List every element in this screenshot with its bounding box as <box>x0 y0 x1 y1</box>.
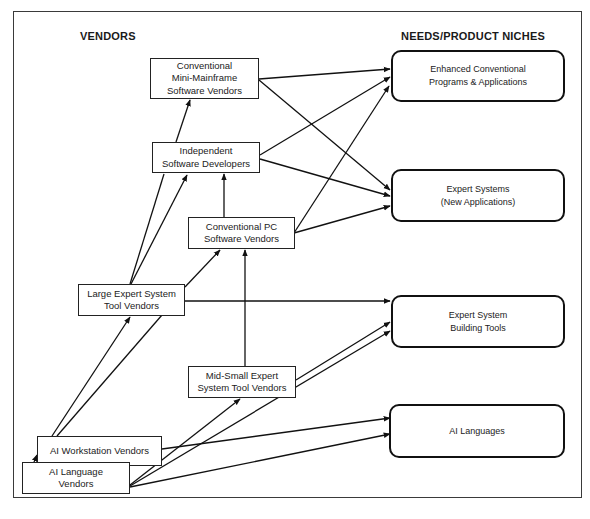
vendor-label-line: Tool Vendors <box>104 300 159 313</box>
arrow-workstation-to-large <box>52 317 130 436</box>
arrow-midsmall-to-building-tools <box>296 322 390 380</box>
vendor-label-line: Conventional <box>177 60 232 73</box>
niche-box-expert-systems[interactable]: Expert Systems (New Applications) <box>391 169 565 222</box>
arrow-language-to-large <box>57 315 162 436</box>
arrow-language-to-ai-languages <box>130 434 390 487</box>
vendor-box-conventional-pc[interactable]: Conventional PC Software Vendors <box>188 217 295 249</box>
vendor-label-line: Software Developers <box>162 158 250 171</box>
vendor-label-line: Large Expert System <box>87 288 176 301</box>
niche-label-line: Programs & Applications <box>429 76 527 89</box>
niche-label-line: Building Tools <box>450 322 505 335</box>
diagram-canvas: VENDORS NEEDS/PRODUCT NICHES Conventiona… <box>0 0 590 519</box>
vendor-label-line: Conventional PC <box>206 221 277 234</box>
arrow-independent-to-minimainframe <box>176 100 190 142</box>
vendor-box-large-expert[interactable]: Large Expert System Tool Vendors <box>78 284 185 316</box>
vendor-label-line: Vendors <box>59 478 94 491</box>
arrow-minimainframe-to-enhanced <box>259 69 390 79</box>
niche-label-line: Expert Systems <box>446 183 509 196</box>
niche-label-line: (New Applications) <box>441 196 516 209</box>
vendor-label-line: Mini-Mainframe <box>172 72 237 85</box>
vendor-label-line: Mid-Small Expert <box>206 370 278 383</box>
vendor-box-ai-language[interactable]: AI Language Vendors <box>22 462 130 494</box>
niche-box-ai-languages[interactable]: AI Languages <box>389 404 565 458</box>
arrow-language-to-building-tools <box>130 331 390 486</box>
niche-label-line: Enhanced Conventional <box>430 63 526 76</box>
vendor-label-line: Independent <box>180 145 233 158</box>
niches-heading: NEEDS/PRODUCT NICHES <box>401 30 545 42</box>
niche-label-line: Expert System <box>449 309 508 322</box>
arrow-large-to-pc <box>185 250 220 287</box>
vendor-label-line: AI Language <box>49 466 103 479</box>
vendor-box-mini-mainframe[interactable]: Conventional Mini-Mainframe Software Ven… <box>150 58 259 99</box>
arrow-minimainframe-to-expert-systems <box>259 80 390 190</box>
vendor-box-independent[interactable]: Independent Software Developers <box>152 142 260 173</box>
niche-box-building-tools[interactable]: Expert System Building Tools <box>391 295 565 348</box>
niche-label-line: AI Languages <box>449 425 505 438</box>
vendor-label-line: System Tool Vendors <box>197 382 286 395</box>
vendor-box-mid-small-expert[interactable]: Mid-Small Expert System Tool Vendors <box>188 366 296 398</box>
vendor-label-line: AI Workstation Vendors <box>50 445 149 458</box>
niche-box-enhanced-conventional[interactable]: Enhanced Conventional Programs & Applica… <box>391 50 565 102</box>
vendor-label-line: Software Vendors <box>204 233 279 246</box>
vendors-heading: VENDORS <box>80 30 136 42</box>
arrow-independent-to-enhanced <box>260 77 390 155</box>
vendor-label-line: Software Vendors <box>167 85 242 98</box>
arrow-independent-to-expert-systems <box>260 159 390 196</box>
